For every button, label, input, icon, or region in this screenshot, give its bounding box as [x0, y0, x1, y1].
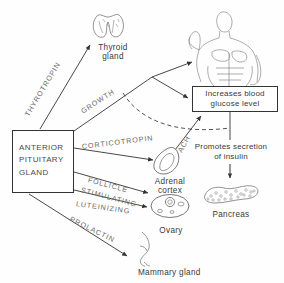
diagram-canvas: ANTERIOR PITUITARY GLAND Increases blood… — [0, 0, 284, 283]
adrenal-line-2: cortex — [158, 186, 182, 195]
glucose-line-2: glucose level — [211, 99, 260, 108]
adrenal-cortex-icon — [154, 147, 179, 174]
thyroid-line-2: gland — [102, 52, 124, 61]
ovary-icon — [151, 195, 189, 218]
organ-label-thyroid: Thyroid gland — [91, 43, 135, 61]
pancreas-line-1: Pancreas — [213, 210, 250, 219]
organ-label-pancreas: Pancreas — [208, 210, 254, 219]
increases-blood-glucose-label: Increases blood glucose level — [205, 89, 264, 109]
ovary-line-1: Ovary — [159, 226, 182, 235]
mammary-line-1: Mammary gland — [138, 268, 201, 277]
insulin-line-2: of insulin — [214, 152, 248, 161]
organ-label-ovary: Ovary — [150, 226, 192, 235]
thyroid-gland-icon — [93, 14, 123, 37]
adrenal-line-1: Adrenal — [155, 177, 185, 186]
thyroid-line-1: Thyroid — [98, 43, 127, 52]
increases-blood-glucose-box: Increases blood glucose level — [192, 86, 278, 112]
organ-label-mammary-gland: Mammary gland — [138, 268, 216, 277]
mammary-gland-icon — [140, 232, 150, 266]
glucose-line-1: Increases blood — [205, 89, 264, 98]
human-figure-icon — [189, 12, 261, 88]
pancreas-icon — [205, 186, 258, 203]
insulin-line-1: Promotes secretion — [195, 142, 268, 151]
anterior-pituitary-gland-label: ANTERIOR PITUITARY GLAND — [19, 142, 64, 179]
anterior-pituitary-gland-box: ANTERIOR PITUITARY GLAND — [12, 130, 74, 193]
promotes-secretion-of-insulin-label: Promotes secretion of insulin — [186, 142, 276, 162]
organ-label-adrenal-cortex: Adrenal cortex — [145, 177, 195, 195]
